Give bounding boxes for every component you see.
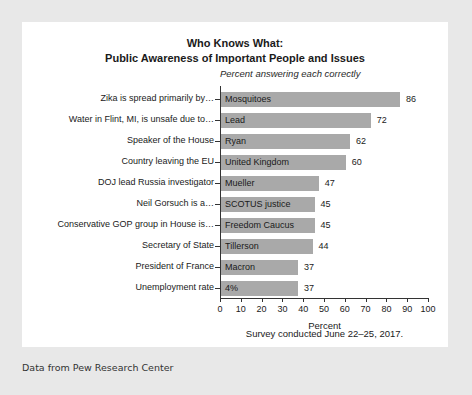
chart-card: Who Knows What: Public Awareness of Impo…	[22, 22, 448, 347]
bar-row: Unemployment rate4%37	[22, 278, 448, 299]
y-axis-tick	[215, 99, 220, 100]
y-axis-tick	[215, 120, 220, 121]
x-axis-tick	[303, 298, 304, 302]
x-axis-tick	[407, 298, 408, 302]
bar-category-label: Speaker of the House	[127, 135, 214, 145]
bar-value-label: 37	[304, 283, 314, 293]
bar-row: Secretary of StateTillerson44	[22, 236, 448, 257]
chart-subtitle: Percent answering each correctly	[220, 68, 360, 79]
bar-category-label: Neil Gorsuch is a…	[136, 198, 214, 208]
y-axis-tick	[215, 204, 220, 205]
bar-value-label: 45	[321, 199, 331, 209]
bar-row: Conservative GOP group in House is…Freed…	[22, 215, 448, 236]
bar-answer-label: Mosquitoes	[225, 94, 271, 104]
bar-category-label: Country leaving the EU	[121, 156, 214, 166]
bar-row: DOJ lead Russia investigatorMueller47	[22, 173, 448, 194]
bar-answer-label: Lead	[225, 115, 245, 125]
bar-answer-label: Mueller	[225, 178, 255, 188]
bar-answer-label: Freedom Caucus	[225, 220, 294, 230]
bar-category-label: Water in Flint, MI, is unsafe due to…	[69, 114, 214, 124]
bar-category-label: President of France	[135, 261, 214, 271]
bar-row: President of FranceMacron37	[22, 257, 448, 278]
x-axis-tick	[220, 298, 221, 302]
chart-title: Who Knows What: Public Awareness of Impo…	[22, 36, 448, 66]
bar-row: Speaker of the HouseRyan62	[22, 131, 448, 152]
bar-value-label: 72	[377, 115, 387, 125]
chart-title-line-1: Who Knows What:	[187, 37, 284, 49]
bar-row: Country leaving the EUUnited Kingdom60	[22, 152, 448, 173]
x-axis-tick-label: 100	[416, 304, 440, 314]
y-axis-tick	[215, 183, 220, 184]
y-axis-tick	[215, 246, 220, 247]
y-axis-tick	[215, 225, 220, 226]
x-axis-tick	[324, 298, 325, 302]
footer-source-note: Data from Pew Research Center	[22, 362, 173, 373]
bar-category-label: Zika is spread primarily by…	[100, 93, 214, 103]
bar-answer-label: SCOTUS justice	[225, 199, 291, 209]
chart-caption: Survey conducted June 22–25, 2017.	[220, 328, 429, 339]
y-axis-tick	[215, 288, 220, 289]
bar-answer-label: Ryan	[225, 136, 246, 146]
x-axis-tick	[241, 298, 242, 302]
bar-value-label: 60	[352, 157, 362, 167]
bar-answer-label: Macron	[225, 262, 255, 272]
x-axis-tick	[262, 298, 263, 302]
bar-value-label: 86	[406, 94, 416, 104]
bar-value-label: 45	[321, 220, 331, 230]
bar-answer-label: United Kingdom	[225, 157, 289, 167]
bar-value-label: 44	[319, 241, 329, 251]
bar-value-label: 47	[325, 178, 335, 188]
bar-answer-label: Tillerson	[225, 241, 259, 251]
x-axis-tick	[366, 298, 367, 302]
x-axis-tick	[345, 298, 346, 302]
bar-category-label: Conservative GOP group in House is…	[58, 219, 214, 229]
y-axis-tick	[215, 267, 220, 268]
bar-answer-label: 4%	[225, 283, 238, 293]
bar-category-label: Secretary of State	[142, 240, 214, 250]
bar-row: Zika is spread primarily by…Mosquitoes86	[22, 89, 448, 110]
bar-row: Neil Gorsuch is a…SCOTUS justice45	[22, 194, 448, 215]
x-axis-tick	[428, 298, 429, 302]
x-axis-tick	[386, 298, 387, 302]
bar-row: Water in Flint, MI, is unsafe due to…Lea…	[22, 110, 448, 131]
plot-area: Zika is spread primarily by…Mosquitoes86…	[22, 86, 448, 316]
chart-title-line-2: Public Awareness of Important People and…	[22, 51, 448, 66]
bar-category-label: DOJ lead Russia investigator	[98, 177, 214, 187]
bar-value-label: 37	[304, 262, 314, 272]
bar-category-label: Unemployment rate	[135, 282, 214, 292]
x-axis-tick	[282, 298, 283, 302]
bar-value-label: 62	[356, 136, 366, 146]
y-axis-tick	[215, 162, 220, 163]
y-axis-tick	[215, 141, 220, 142]
